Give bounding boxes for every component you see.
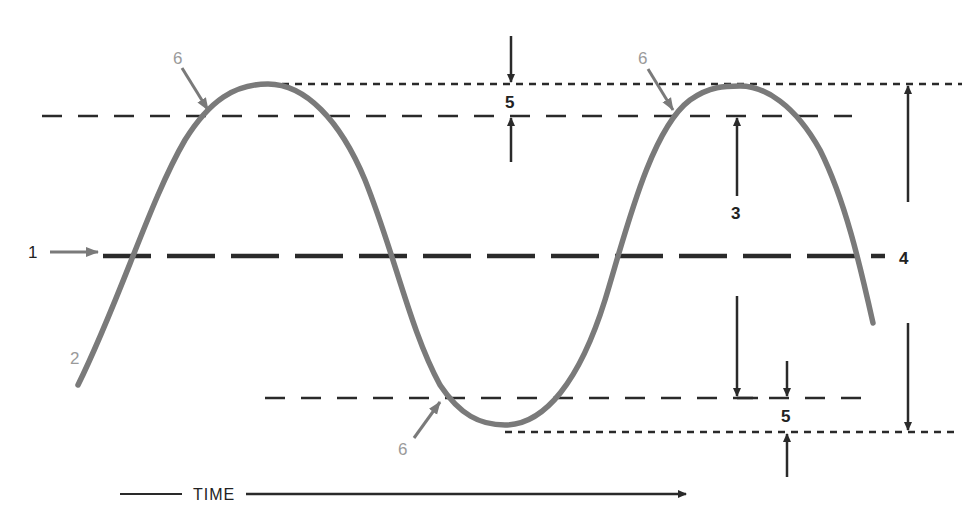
callout-6-left-label: 6 [173, 49, 182, 68]
tolerance-bottom-label: 5 [781, 407, 790, 426]
peak-to-peak-label: 4 [899, 249, 909, 268]
crossing-arrow-left-icon [182, 68, 208, 110]
crossing-arrow-right-icon [648, 69, 673, 110]
tolerance-top-label: 5 [505, 93, 514, 112]
time-axis-label: TIME [193, 486, 235, 503]
callout-6-bottom-label: 6 [398, 440, 407, 459]
callout-1-label: 1 [28, 243, 37, 262]
callout-6-right-label: 6 [638, 49, 647, 68]
amplitude-label: 3 [731, 204, 740, 223]
sine-wave-diagram: 1 2 6 6 6 5 3 5 4 TIME [0, 0, 964, 525]
callout-2-label: 2 [70, 349, 79, 368]
crossing-arrow-bottom-icon [414, 402, 440, 438]
